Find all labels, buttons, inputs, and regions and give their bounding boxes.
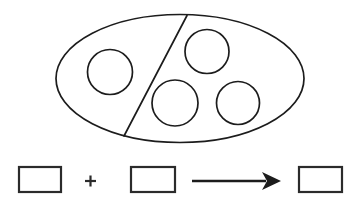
worksheet-drawing: [ ] ===== --> [0, 0, 360, 212]
counter-circle-left-1 [88, 50, 133, 95]
partition-divider-line [124, 16, 187, 137]
sum-box[interactable] [299, 167, 342, 192]
right-arrow-icon [192, 172, 281, 190]
worksheet-canvas: [ ] ===== --> [0, 0, 360, 212]
first-addend-box[interactable] [19, 167, 61, 192]
counter-circle-right-3 [217, 82, 260, 125]
counter-circle-right-1 [185, 30, 229, 74]
second-addend-box[interactable] [131, 167, 175, 192]
number-sentence-group [19, 167, 342, 192]
set-ellipse-outline [56, 15, 304, 143]
set-diagram-group [56, 15, 304, 143]
plus-icon [85, 176, 96, 187]
counter-circle-right-2 [152, 80, 198, 126]
